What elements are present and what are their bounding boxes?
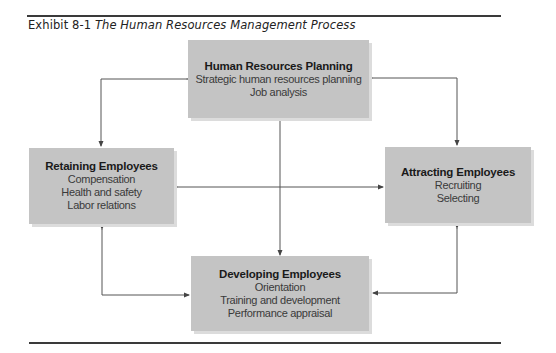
box-item: Recruiting bbox=[435, 179, 482, 192]
connector-retaining-developing bbox=[102, 229, 189, 295]
box-retaining-employees: Retaining Employees Compensation Health … bbox=[29, 148, 174, 224]
box-human-resources-planning: Human Resources Planning Strategic human… bbox=[188, 40, 369, 118]
box-item: Compensation bbox=[68, 173, 135, 186]
box-item: Labor relations bbox=[67, 199, 135, 212]
connector-attracting-developing bbox=[373, 228, 457, 293]
bottom-rule bbox=[29, 342, 501, 344]
box-item: Training and development bbox=[220, 294, 340, 307]
box-heading: Retaining Employees bbox=[45, 160, 158, 172]
box-item: Job analysis bbox=[250, 86, 307, 99]
box-item: Health and safety bbox=[61, 186, 142, 199]
box-item: Strategic human resources planning bbox=[196, 73, 362, 86]
box-developing-employees: Developing Employees Orientation Trainin… bbox=[191, 256, 369, 331]
box-item: Orientation bbox=[255, 281, 306, 294]
box-heading: Human Resources Planning bbox=[205, 60, 353, 72]
connector-planning-retaining bbox=[101, 79, 187, 146]
box-item: Selecting bbox=[437, 192, 480, 205]
box-heading: Attracting Employees bbox=[401, 166, 515, 178]
connector-planning-attracting bbox=[372, 78, 457, 145]
box-attracting-employees: Attracting Employees Recruiting Selectin… bbox=[385, 147, 531, 223]
box-item: Performance appraisal bbox=[228, 307, 332, 320]
box-heading: Developing Employees bbox=[219, 268, 341, 280]
